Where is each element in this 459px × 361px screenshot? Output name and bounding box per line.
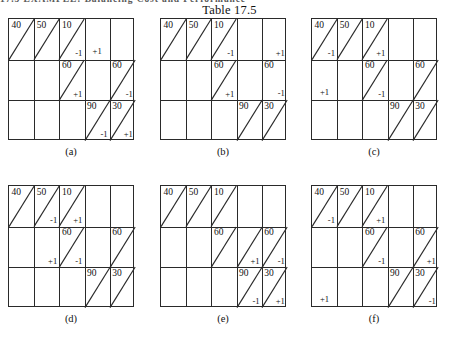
grid-cell-r3c4: 90: [388, 267, 413, 308]
grid-cell-r1c1: 40: [161, 19, 186, 60]
grid-cell-r1c5: +1: [262, 19, 287, 60]
cell-delta: -1: [378, 89, 385, 99]
cell-delta: +1: [225, 89, 234, 99]
cell-value: 60: [415, 227, 425, 238]
grid-cell-r3c5: 30+1: [262, 267, 287, 308]
panel-label-c: (c): [311, 146, 437, 157]
cell-value: 60: [214, 60, 224, 71]
grid-cell-r1c1: 40-1: [312, 19, 337, 60]
grid-f: 40-15010+160-160+1+19030-1: [311, 185, 437, 307]
grid-cell-r1c2: 50: [34, 19, 59, 60]
cell-value: 90: [390, 101, 400, 112]
cell-delta: +1: [312, 87, 337, 97]
cell-delta: -1: [429, 296, 436, 306]
cell-value: 60: [62, 227, 72, 238]
grid-cell-r1c4: +1: [85, 19, 110, 60]
cell-delta: +1: [376, 48, 385, 58]
grid-cell-r3c5: 30: [262, 100, 287, 141]
grid-cell-r3c5: 30: [110, 267, 135, 308]
cell-delta: -1: [227, 48, 234, 58]
cell-delta: +1: [124, 129, 133, 139]
cell-value: 10: [214, 20, 224, 31]
grid-cell-r2c3: 60-1: [59, 227, 84, 268]
cell-value: 50: [340, 20, 350, 31]
table-caption: Table 17.5: [0, 3, 459, 18]
grid-cell-r3c4: 90: [237, 100, 262, 141]
grid-cell-r2c5: 60+1: [413, 227, 438, 268]
cell-value: 50: [340, 187, 350, 198]
grid-cell-r1c1: 40-1: [312, 186, 337, 227]
cell-value: 40: [315, 20, 325, 31]
grid-d: 4050-110+1+160-1609030: [8, 185, 134, 307]
cell-delta: -1: [75, 256, 82, 266]
cell-delta: +1: [312, 294, 337, 304]
grid-cell-r1c1: 40: [9, 186, 34, 227]
cell-value: 90: [390, 268, 400, 279]
cell-value: 50: [37, 20, 47, 31]
cell-value: 30: [264, 101, 274, 112]
cell-value: 50: [37, 187, 47, 198]
grid-cell-r2c5: 60: [110, 227, 135, 268]
grid-cell-r3c4: 90-1: [85, 100, 110, 141]
cell-value: 40: [164, 20, 174, 31]
cell-value: 90: [87, 101, 97, 112]
grid-cell-r1c2: 50: [186, 186, 211, 227]
cell-delta: +1: [276, 48, 285, 58]
grid-cell-r2c3: 60-1: [362, 227, 387, 268]
cell-delta: -1: [328, 48, 335, 58]
cell-delta: -1: [328, 215, 335, 225]
cell-value: 30: [112, 268, 122, 279]
grid-cell-r3c4: 90-1: [237, 267, 262, 308]
cell-value: 50: [189, 187, 199, 198]
cell-value: 60: [365, 60, 375, 71]
cell-delta: -1: [50, 215, 57, 225]
cell-value: 60: [415, 60, 425, 71]
grid-cell-r2c5: 60-1: [110, 60, 135, 101]
grid-cell-r2c2: +1: [34, 227, 59, 268]
cell-value: 40: [315, 187, 325, 198]
grid-cell-r1c2: 50: [337, 19, 362, 60]
grid-cell-r3c4: 90: [85, 267, 110, 308]
cell-value: 10: [62, 187, 72, 198]
grid-a: 405010-1+160+160-190-130+1: [8, 18, 134, 140]
grid-cell-r1c3: 10: [211, 186, 236, 227]
grid-cell-r2c5: 60: [413, 60, 438, 101]
cell-delta: -1: [378, 256, 385, 266]
panel-label-e: (e): [160, 313, 286, 324]
grid-cell-r2c3: 60+1: [211, 60, 236, 101]
cell-value: 60: [112, 60, 122, 71]
cell-delta: +1: [276, 296, 285, 306]
grid-e: 40501060+160-190-130+1: [160, 185, 286, 307]
cell-value: 40: [12, 187, 22, 198]
cell-delta: -1: [278, 88, 285, 98]
grid-cell-r2c4: +1: [237, 227, 262, 268]
cell-value: 30: [415, 268, 425, 279]
cell-delta: -1: [278, 256, 285, 266]
panel-c: 40-15010+1+160-1609030(c): [311, 18, 449, 140]
cell-value: 40: [12, 20, 22, 31]
cell-value: 10: [214, 187, 224, 198]
grid-cell-r2c1: +1: [312, 60, 337, 101]
cell-value: 30: [264, 268, 274, 279]
grid-cell-r1c1: 40: [161, 186, 186, 227]
cell-value: 30: [112, 101, 122, 112]
panel-d: 4050-110+1+160-1609030(d): [8, 185, 146, 307]
panel-a: 405010-1+160+160-190-130+1(a): [8, 18, 146, 140]
grid-cell-r1c2: 50-1: [34, 186, 59, 227]
grid-cell-r1c2: 50: [186, 19, 211, 60]
panel-label-b: (b): [160, 146, 286, 157]
panel-f: 40-15010+160-160+1+19030-1(f): [311, 185, 449, 307]
cell-value: 10: [62, 20, 72, 31]
cell-delta: -1: [252, 296, 259, 306]
grid-cell-r2c3: 60: [211, 227, 236, 268]
cell-value: 60: [62, 60, 72, 71]
grid-cell-r3c1: +1: [312, 267, 337, 308]
cell-delta: +1: [85, 46, 110, 56]
panel-label-f: (f): [311, 313, 437, 324]
cell-value: 90: [87, 268, 97, 279]
cell-delta: -1: [100, 129, 107, 139]
cell-delta: -1: [75, 48, 82, 58]
grid-cell-r2c5: 60-1: [262, 60, 287, 101]
cell-value: 10: [365, 187, 375, 198]
grid-cell-r3c5: 30+1: [110, 100, 135, 141]
